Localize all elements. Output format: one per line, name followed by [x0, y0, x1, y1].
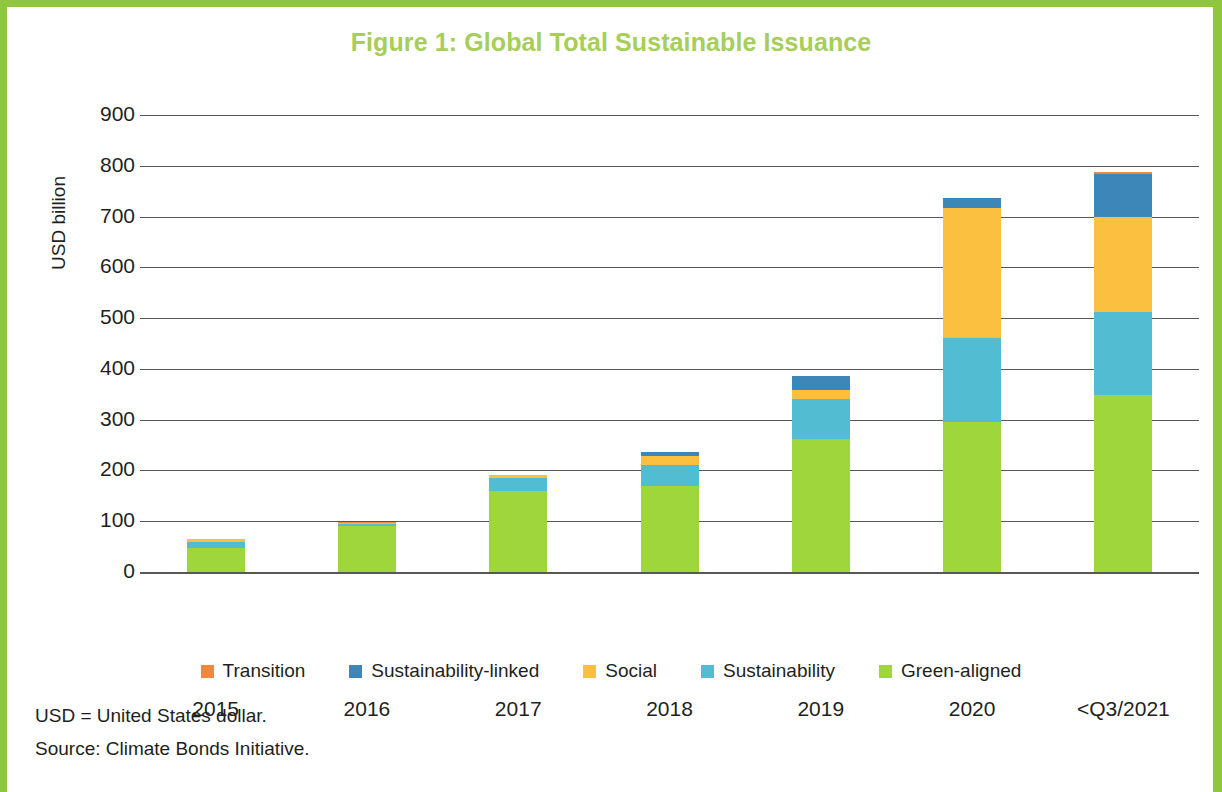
bar-segment-sustainability-linked [792, 376, 850, 390]
legend-swatch-icon [583, 665, 596, 678]
chart-legend: TransitionSustainability-linkedSocialSus… [0, 660, 1222, 682]
legend-item-social: Social [583, 660, 657, 682]
source-note: Source: Climate Bonds Initiative. [35, 738, 310, 760]
bar-segment-sustainability-linked [943, 198, 1001, 208]
bar-2017 [489, 475, 547, 572]
y-axis-tick-label: 800 [15, 153, 135, 177]
bar-segment-social [943, 208, 1001, 338]
y-axis-tick-label: 700 [15, 204, 135, 228]
bar-segment-green-aligned [338, 526, 396, 572]
bar-segment-green-aligned [1094, 395, 1152, 572]
bar-segment-social [1094, 217, 1152, 312]
bar-segment-green-aligned [943, 422, 1001, 572]
x-axis-tick-label: 2020 [897, 697, 1047, 721]
legend-swatch-icon [349, 665, 362, 678]
gridline [140, 572, 1199, 574]
gridline [140, 166, 1199, 167]
bar-segment-social [641, 456, 699, 465]
legend-swatch-icon [201, 665, 214, 678]
x-axis-tick-label: 2019 [746, 697, 896, 721]
gridline [140, 115, 1199, 116]
chart-title: Figure 1: Global Total Sustainable Issua… [0, 28, 1222, 57]
chart-plot-area: 9008007006005004003002001000 20152016201… [140, 115, 1199, 572]
bar-segment-sustainability [792, 399, 850, 439]
gridline [140, 267, 1199, 268]
legend-label: Transition [223, 660, 306, 682]
legend-item-transition: Transition [201, 660, 306, 682]
bar-segment-social [792, 390, 850, 399]
legend-label: Sustainability-linked [371, 660, 539, 682]
bar-segment-sustainability [641, 465, 699, 485]
bar-segment-green-aligned [792, 439, 850, 572]
bar-segment-green-aligned [187, 548, 245, 572]
bar-segment-green-aligned [489, 491, 547, 572]
bar-2018 [641, 452, 699, 572]
y-axis-tick-label: 300 [15, 407, 135, 431]
abbreviation-note: USD = United States dollar. [35, 705, 267, 727]
bar-2020 [943, 198, 1001, 572]
x-axis-tick-label: 2016 [292, 697, 442, 721]
y-axis-tick-label: 500 [15, 305, 135, 329]
bar-Q32021 [1094, 172, 1152, 572]
gridline [140, 217, 1199, 218]
y-axis-tick-label: 600 [15, 254, 135, 278]
legend-label: Sustainability [723, 660, 835, 682]
y-axis-tick-label: 400 [15, 356, 135, 380]
gridline [140, 369, 1199, 370]
legend-item-sustainability-linked: Sustainability-linked [349, 660, 539, 682]
legend-item-sustainability: Sustainability [701, 660, 835, 682]
gridline [140, 318, 1199, 319]
x-axis-tick-label: 2017 [443, 697, 593, 721]
y-axis-tick-label: 900 [15, 102, 135, 126]
x-axis-tick-label: <Q3/2021 [1048, 697, 1198, 721]
bar-segment-sustainability [943, 338, 1001, 422]
y-axis-tick-label: 100 [15, 508, 135, 532]
y-axis-tick-label: 200 [15, 457, 135, 481]
figure-page: Figure 1: Global Total Sustainable Issua… [0, 0, 1222, 792]
bar-segment-green-aligned [641, 486, 699, 572]
legend-swatch-icon [701, 665, 714, 678]
y-axis-tick-label: 0 [15, 559, 135, 583]
bar-segment-sustainability-linked [1094, 174, 1152, 216]
legend-label: Social [605, 660, 657, 682]
bar-segment-sustainability [1094, 312, 1152, 396]
bar-segment-sustainability [489, 478, 547, 491]
bar-2019 [792, 376, 850, 572]
x-axis-tick-label: 2018 [595, 697, 745, 721]
legend-swatch-icon [879, 665, 892, 678]
bar-2016 [338, 522, 396, 572]
gridline [140, 420, 1199, 421]
bar-2015 [187, 539, 245, 572]
legend-item-green-aligned: Green-aligned [879, 660, 1021, 682]
page-frame-top-border [0, 0, 1222, 7]
legend-label: Green-aligned [901, 660, 1021, 682]
